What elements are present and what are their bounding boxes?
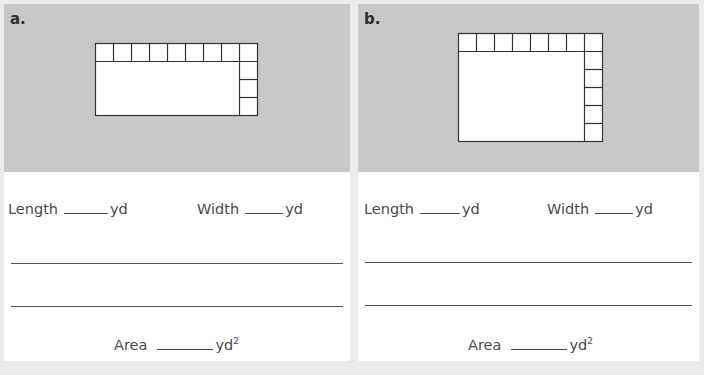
area-answer-blank[interactable] bbox=[157, 348, 213, 350]
length-answer-blank[interactable] bbox=[64, 212, 108, 214]
problem-b-rectangle-grid bbox=[458, 33, 603, 142]
work-line-2[interactable] bbox=[11, 306, 343, 307]
problem-a-panel: a. Lengthyd Widthyd Areayd2 bbox=[4, 4, 350, 361]
area-label: Area bbox=[114, 337, 147, 353]
problem-a-area-row: Areayd2 bbox=[114, 336, 239, 353]
problem-a-rectangle-grid bbox=[95, 43, 258, 116]
area-exponent: 2 bbox=[233, 336, 239, 346]
width-label: Width bbox=[547, 201, 589, 217]
problem-b-label: b. bbox=[364, 10, 380, 28]
length-answer-blank[interactable] bbox=[420, 212, 460, 214]
width-label: Width bbox=[197, 201, 239, 217]
length-unit: yd bbox=[110, 201, 128, 217]
problem-a-length-row: Lengthyd bbox=[8, 201, 128, 217]
problem-a-figure-area: a. bbox=[4, 4, 350, 172]
work-line-1[interactable] bbox=[365, 262, 692, 263]
problem-a-width-row: Widthyd bbox=[197, 201, 303, 217]
length-label: Length bbox=[364, 201, 414, 217]
grid-diagram bbox=[95, 43, 258, 116]
problem-b-figure-area: b. bbox=[358, 4, 699, 172]
area-label: Area bbox=[468, 337, 501, 353]
area-exponent: 2 bbox=[587, 336, 593, 346]
work-line-2[interactable] bbox=[365, 305, 692, 306]
width-answer-blank[interactable] bbox=[595, 212, 633, 214]
length-unit: yd bbox=[462, 201, 480, 217]
width-answer-blank[interactable] bbox=[245, 212, 283, 214]
problem-b-panel: b. Lengthyd Widthyd Areayd2 bbox=[358, 4, 699, 361]
problem-b-length-row: Lengthyd bbox=[364, 201, 480, 217]
width-unit: yd bbox=[635, 201, 653, 217]
problem-a-label: a. bbox=[10, 10, 26, 28]
work-line-1[interactable] bbox=[11, 263, 343, 264]
length-label: Length bbox=[8, 201, 58, 217]
problem-b-area-row: Areayd2 bbox=[468, 336, 593, 353]
area-unit: yd bbox=[215, 337, 233, 353]
width-unit: yd bbox=[285, 201, 303, 217]
area-unit: yd bbox=[569, 337, 587, 353]
problem-b-width-row: Widthyd bbox=[547, 201, 653, 217]
grid-diagram bbox=[458, 33, 603, 142]
area-answer-blank[interactable] bbox=[511, 348, 567, 350]
